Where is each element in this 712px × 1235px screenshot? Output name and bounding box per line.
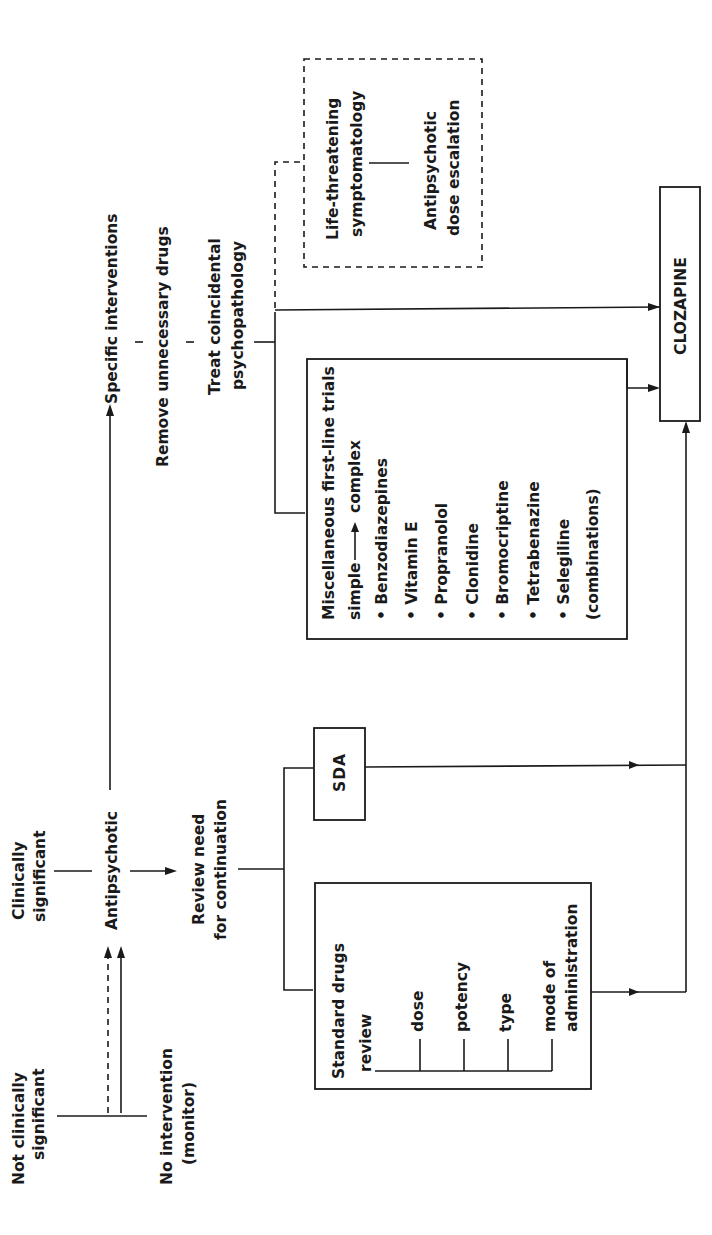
- arrow-treat-to-clozapine: [275, 307, 660, 310]
- arrowhead-icon: [629, 761, 639, 769]
- svg-text:for continuation: for continuation: [212, 799, 230, 940]
- branch-bracket-treat: [275, 312, 305, 513]
- svg-text:Clinically: Clinically: [10, 841, 28, 920]
- arrowhead-icon: [648, 384, 660, 392]
- arrowhead-icon: [682, 421, 690, 433]
- clozapine-label: CLOZAPINE: [672, 257, 690, 355]
- svg-text:Review need: Review need: [190, 814, 208, 925]
- svg-text:(monitor): (monitor): [180, 1082, 198, 1165]
- arrowhead-icon: [117, 946, 125, 958]
- item-mode-of: mode of: [541, 961, 559, 1032]
- svg-text:Life-threatening: Life-threatening: [324, 98, 342, 240]
- item-administration: administration: [563, 903, 581, 1032]
- misc-complex-label: complex: [346, 440, 364, 513]
- item-dose: dose: [409, 991, 427, 1032]
- misc-title: Miscellaneous first-line trials: [320, 366, 338, 620]
- misc-item: • Clonidine: [464, 523, 482, 620]
- arrowhead-icon: [106, 404, 114, 416]
- svg-text:Antipsychotic: Antipsychotic: [422, 111, 440, 230]
- node-review: Review need for continuation: [190, 799, 230, 940]
- sda-label: SDA: [331, 753, 349, 792]
- node-remove-drugs: Remove unnecessary drugs: [154, 226, 172, 467]
- svg-text:dose escalation: dose escalation: [445, 100, 463, 236]
- arrowhead-icon: [648, 303, 660, 311]
- svg-text:psychopathology: psychopathology: [229, 241, 247, 390]
- flowchart: Not clinically significant No interventi…: [0, 0, 712, 1235]
- node-treat-coincidental: Treat coincidental psychopathology: [206, 238, 247, 395]
- item-type: type: [497, 993, 515, 1032]
- svg-text:Treat coincidental: Treat coincidental: [206, 238, 224, 395]
- svg-text:symptomatology: symptomatology: [348, 91, 366, 237]
- node-no-intervention: No intervention (monitor): [158, 1048, 198, 1185]
- misc-item: • Tetrabenazine: [525, 481, 543, 620]
- misc-item: • Selegiline: [555, 519, 573, 620]
- svg-text:significant: significant: [31, 830, 49, 922]
- arrowhead-icon: [104, 946, 112, 958]
- node-dose-escalation: Antipsychotic dose escalation: [422, 100, 463, 236]
- node-specific-interventions: Specific interventions: [103, 213, 121, 404]
- arrow-misc-to-clozapine: [627, 359, 652, 388]
- node-clinically-significant: Clinically significant: [10, 830, 49, 922]
- misc-item: • Bromocriptine: [494, 480, 512, 620]
- arrowhead-icon: [629, 988, 639, 996]
- misc-item: • Vitamin E: [403, 521, 421, 620]
- item-potency: potency: [453, 962, 471, 1032]
- node-life-threatening: Life-threatening symptomatology: [324, 91, 366, 240]
- svg-text:Not clinically: Not clinically: [10, 1072, 28, 1185]
- dashed-line-to-life-threatening: [275, 162, 302, 308]
- misc-item: • Propranolol: [433, 503, 451, 620]
- svg-text:review: review: [357, 1014, 375, 1072]
- arrowhead-icon: [165, 867, 177, 875]
- node-not-significant: Not clinically significant: [10, 1068, 48, 1185]
- misc-item: • Benzodiazepines: [373, 458, 391, 620]
- svg-text:Standard drugs: Standard drugs: [330, 943, 348, 1079]
- misc-item: (combinations): [584, 488, 602, 620]
- svg-text:No intervention: No intervention: [158, 1048, 176, 1185]
- node-antipsychotic: Antipsychotic: [103, 811, 121, 930]
- misc-simple-label: simple: [346, 562, 364, 620]
- branch-bracket-review: [284, 768, 313, 990]
- svg-text:significant: significant: [30, 1068, 48, 1160]
